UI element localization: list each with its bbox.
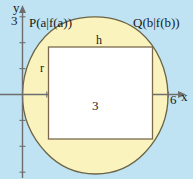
height-label: h [96, 34, 102, 46]
x-tick-label-3: 3 [92, 99, 99, 112]
inscribed-rectangle [49, 47, 153, 139]
x-tick-label-6: 6 [170, 93, 177, 106]
point-q-label: Q(b|f(b)) [133, 16, 180, 29]
point-p-label: P(a|f(a)) [29, 16, 72, 29]
x-axis-label: x [181, 90, 188, 103]
y-axis-arrowhead [19, 5, 26, 13]
math-figure: P(a|f(a)) Q(b|f(b)) h r x y 6 3 3 [0, 0, 193, 179]
radius-label: r [40, 62, 44, 74]
y-tick-label-3: 3 [11, 14, 18, 27]
